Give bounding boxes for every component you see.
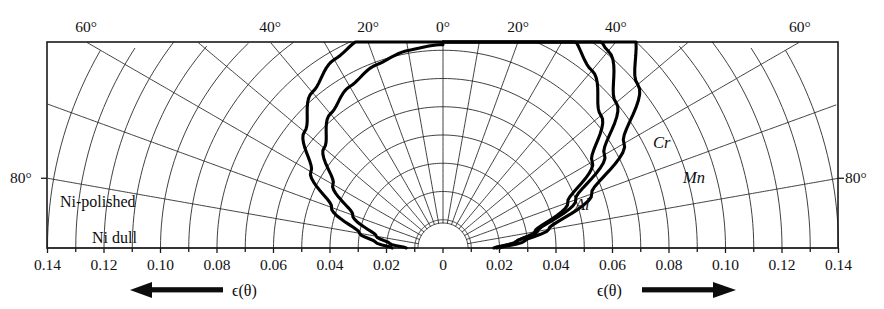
plot-frame [47, 42, 838, 248]
angle-label-40deg: 40° [605, 18, 627, 35]
chart-canvas: 0.140.120.100.080.060.040.0200.020.040.0… [0, 0, 884, 309]
emissivity-polar-chart: 0.140.120.100.080.060.040.0200.020.040.0… [0, 0, 884, 309]
grid-radial-line [199, 43, 424, 232]
axis-tick-label: 0 [439, 256, 447, 273]
axis-tick-label: 0.08 [655, 256, 682, 273]
grid-radial-line [468, 178, 838, 243]
angle-label-20deg: 20° [507, 18, 529, 35]
curve-label-ni-dull: Ni dull [92, 229, 137, 246]
grid-radial-line [465, 43, 799, 236]
grid-arc [132, 46, 206, 248]
angle-label-0deg: 0° [436, 18, 450, 35]
curve-label-cr: Cr [653, 133, 671, 152]
axis-tick-label: 0.12 [90, 256, 117, 273]
arrow-left-tail [151, 287, 223, 292]
grid-arc [679, 46, 753, 248]
curve-label-al: Al [574, 195, 590, 214]
axis-tick-label: 0.08 [203, 256, 230, 273]
axis-direction-titles: ϵ(θ) ϵ(θ) [130, 282, 736, 300]
grid-arc [415, 220, 443, 248]
data-curve-al [443, 42, 603, 248]
axis-tick-label: 0.04 [542, 256, 569, 273]
grid-arc [443, 220, 471, 248]
curve-label-mn: Mn [682, 168, 705, 187]
axis-tick-label: 0.02 [486, 256, 513, 273]
polar-grid [47, 42, 838, 248]
angle-label-80-left: 80° [10, 169, 32, 186]
axis-tick-label: 0.06 [260, 256, 287, 273]
grid-arc [592, 42, 697, 248]
axis-tick-label: 0.04 [316, 256, 343, 273]
axis-tick-label: 0.02 [373, 256, 400, 273]
arrow-left-icon [130, 282, 152, 298]
arrow-right-tail [642, 287, 714, 292]
plot-frame-rect [47, 42, 838, 248]
angle-label-40deg: 40° [259, 18, 281, 35]
angle-label-60deg: 60° [75, 18, 97, 35]
grid-radial-line [369, 43, 435, 224]
axis-tick-label: 0.14 [825, 256, 852, 273]
axis-tick-label: 0.12 [768, 256, 795, 273]
data-curve-cr [443, 42, 640, 248]
data-curves [303, 42, 640, 248]
angle-label-80-right: 80° [845, 169, 867, 186]
epsilon-label-right: ϵ(θ) [597, 282, 622, 300]
data-curve-ni-dull [303, 42, 443, 248]
grid-radial-line [452, 43, 518, 224]
grid-arc [786, 50, 839, 248]
axis-tick-label: 0.10 [712, 256, 739, 273]
grid-arc [217, 42, 351, 248]
grid-radial-line [407, 43, 439, 223]
angle-label-20deg: 20° [357, 18, 379, 35]
axis-tick-label: 0.10 [147, 256, 174, 273]
grid-radial-line [447, 43, 479, 223]
axis-tick-label: 0.14 [34, 256, 61, 273]
curve-label-ni-polished: Ni-polished [60, 193, 136, 211]
arrow-right-icon [713, 282, 736, 298]
angle-label-60deg: 60° [789, 18, 811, 35]
grid-arc [48, 50, 101, 248]
grid-radial-line [271, 43, 427, 229]
epsilon-label-left: ϵ(θ) [232, 282, 257, 300]
axis-tick-label: 0.06 [599, 256, 626, 273]
grid-radial-line [87, 43, 421, 236]
grid-arc [189, 42, 294, 248]
